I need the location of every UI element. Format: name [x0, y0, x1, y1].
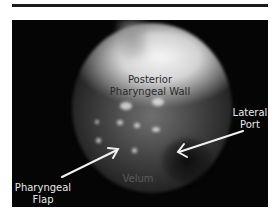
top-rule [12, 4, 268, 7]
pharyngeal-flap-arrow-icon [62, 150, 117, 177]
lateral-port-arrow-icon [179, 131, 243, 152]
annotation-arrows [12, 20, 268, 207]
endoscopy-image: Posterior Pharyngeal Wall Lateral Port V… [12, 20, 268, 207]
